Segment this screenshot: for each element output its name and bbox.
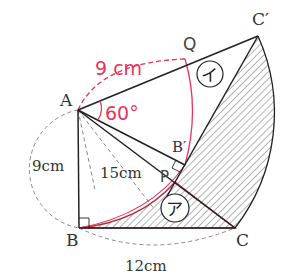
rotation-diagram: A B C B′ C′ Q P 9cm 15cm 12cm 9 cm 60° イ… — [0, 0, 290, 276]
measure-aq: 9 cm — [95, 57, 142, 79]
label-c: C — [236, 230, 249, 250]
segment-ab — [78, 110, 79, 228]
dashed-line-a-b-inner — [78, 110, 95, 190]
label-q: Q — [183, 34, 196, 54]
region-a-label: ア — [166, 199, 183, 219]
label-a: A — [59, 90, 73, 110]
measure-bc: 12cm — [125, 257, 167, 275]
measure-ab: 9cm — [32, 157, 64, 175]
measure-angle: 60° — [105, 102, 139, 124]
label-b: B — [66, 230, 79, 250]
dashed-arc-lower — [79, 228, 235, 245]
label-cprime: C′ — [252, 9, 269, 29]
measure-ac: 15cm — [100, 164, 142, 182]
region-i-label: イ — [201, 65, 218, 85]
label-bprime: B′ — [172, 138, 187, 156]
label-p: P — [160, 168, 169, 186]
angle-mark-a — [98, 101, 102, 120]
